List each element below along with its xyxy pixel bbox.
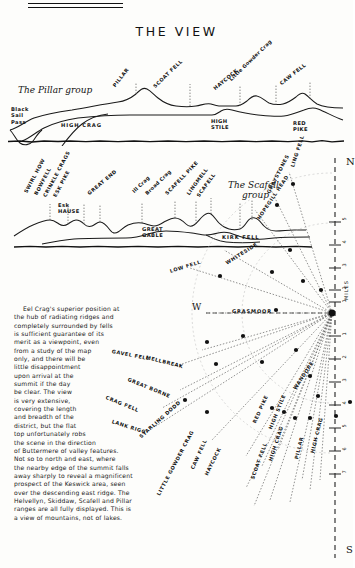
ray-label-grasmoor: GRASMOOR bbox=[232, 308, 272, 314]
mile-tick-s5: 5 bbox=[341, 424, 347, 427]
mile-tick-s2: 2 bbox=[341, 355, 347, 358]
mile-tick-s6: 6 bbox=[341, 447, 347, 450]
compass-north-label: N bbox=[346, 156, 355, 167]
mile-tick-s7: 7 bbox=[341, 470, 347, 473]
mile-tick-s4: 4 bbox=[341, 401, 347, 404]
panorama-pillar-group: The Pillar group Black Sail Pass PILLAR … bbox=[0, 62, 353, 146]
peak-label-high-crag: HIGH CRAG bbox=[61, 122, 102, 128]
mile-tick-n2: 2 bbox=[341, 286, 347, 289]
miles-scale-unit: MILES bbox=[343, 280, 349, 300]
mile-tick-n5: 5 bbox=[341, 217, 347, 220]
mile-tick-n4: 4 bbox=[341, 240, 347, 243]
radial-rays-svg bbox=[150, 150, 353, 568]
compass-south-label: S bbox=[346, 544, 353, 555]
panorama-pillar-skyline bbox=[0, 62, 353, 146]
mile-tick-s1: 1 bbox=[341, 332, 347, 335]
peak-label-esk-hause: Esk HAUSE bbox=[58, 202, 80, 215]
ray-lines bbox=[156, 172, 332, 506]
red-pike-line-2: PIKE bbox=[293, 126, 308, 132]
top-rule-thin bbox=[28, 7, 123, 8]
mile-tick-n1: 1 bbox=[341, 299, 347, 302]
top-rule-thick bbox=[28, 3, 123, 4]
peak-label-red-pike: RED PIKE bbox=[293, 120, 308, 133]
high-stile-line-2: STILE bbox=[211, 124, 229, 130]
esk-hause-line-2: HAUSE bbox=[58, 208, 80, 214]
mile-tick-n3: 3 bbox=[341, 263, 347, 266]
peak-label-high-stile: HIGH STILE bbox=[211, 118, 229, 131]
hub-marker bbox=[329, 310, 336, 317]
mile-tick-s3: 3 bbox=[341, 378, 347, 381]
page-title: THE VIEW bbox=[0, 24, 353, 39]
black-sail-pass-label: Black Sail Pass bbox=[11, 106, 29, 125]
compass-west-label: W bbox=[192, 302, 201, 312]
black-sail-line-3: Pass bbox=[11, 119, 29, 125]
radial-view-diagram: N S W MILES 5 4 3 2 1 1 2 3 4 5 6 7 LING… bbox=[150, 150, 353, 568]
pillar-group-caption: The Pillar group bbox=[18, 85, 92, 95]
